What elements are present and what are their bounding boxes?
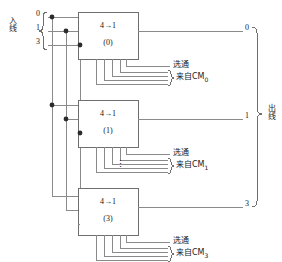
strobe-label-0: 选通: [173, 61, 189, 69]
strobe-label-1: 选通: [173, 149, 189, 157]
junction-dot: [64, 117, 69, 122]
mux-box-1: [78, 100, 138, 147]
junction-dot: [50, 103, 55, 108]
cm-label-3-sub: 3: [205, 252, 209, 259]
output-line-label-1: 1: [245, 112, 249, 120]
cm-label-1: 来自CM1: [176, 161, 208, 171]
input-line-label-2: 3: [36, 38, 40, 46]
output-line-label-0: 0: [245, 24, 249, 32]
mux-box-1-index: (1): [78, 126, 138, 135]
input-group-label: 入线: [7, 16, 15, 32]
cm-line-3c: [104, 235, 168, 256]
vertical-ellipsis: ⋮: [116, 160, 125, 169]
input-bracket: [39, 12, 47, 50]
cm-bracket-0: [168, 70, 174, 86]
cm-bracket-3: [168, 246, 174, 262]
cm-label-1-prefix: 来自CM: [176, 160, 205, 169]
mux-box-0: [78, 12, 138, 59]
cm-label-0: 来自CM0: [176, 73, 208, 83]
strobe-line-0: [126, 59, 170, 66]
strobe-line-1: [126, 147, 170, 154]
output-bracket: [252, 27, 262, 207]
cm-label-0-sub: 0: [205, 76, 209, 83]
schematic-svg: [0, 0, 282, 262]
mux-box-0-type: 4→1: [78, 21, 138, 30]
junction-dot: [50, 15, 55, 20]
cm-label-3: 来自CM3: [176, 249, 208, 259]
cm-line-1c: [104, 147, 168, 168]
cm-label-1-sub: 1: [205, 164, 209, 171]
output-line-label-2: 3: [245, 200, 249, 208]
strobe-label-3: 选通: [173, 237, 189, 245]
schematic-canvas: 入线 0 1 3 4→1 (0) 4→1 (1) 4→1 (3) 选通 来自CM…: [0, 0, 282, 262]
mux-box-3-index: (3): [78, 214, 138, 223]
input-line-label-0: 0: [36, 10, 40, 18]
mux-box-1-type: 4→1: [78, 109, 138, 118]
junction-dot: [64, 29, 69, 34]
mux-box-3-type: 4→1: [78, 197, 138, 206]
strobe-line-3: [126, 235, 170, 242]
cm-bracket-1: [168, 158, 174, 174]
output-group-label: 出线: [266, 104, 274, 120]
cm-label-0-prefix: 来自CM: [176, 72, 205, 81]
input-line-label-1: 1: [36, 24, 40, 32]
mux-box-0-index: (0): [78, 38, 138, 47]
mux-box-3: [78, 188, 138, 235]
cm-label-3-prefix: 来自CM: [176, 248, 205, 257]
cm-line-0c: [104, 59, 168, 80]
